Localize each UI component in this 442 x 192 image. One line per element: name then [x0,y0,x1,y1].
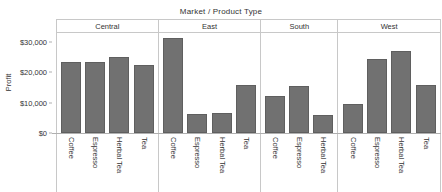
x-axis-tick-label[interactable]: Espresso [372,137,381,168]
x-axis-tick-cell: Coffee [61,134,81,192]
x-axis-tick-cell: Herbal Tea [313,134,333,192]
x-label-panel-central: CoffeeEspressoHerbal TeaTea [56,134,159,192]
panel-header-south: South [261,20,338,32]
x-axis-tick-cell: Tea [134,134,154,192]
x-axis-tick-label[interactable]: Tea [139,137,148,149]
bar[interactable] [109,57,129,133]
x-axis-tick-label[interactable]: Espresso [193,137,202,168]
x-label-panel-east: CoffeeEspressoHerbal TeaTea [159,134,262,192]
x-axis-tick-cell: Espresso [289,134,309,192]
x-axis-tick-label[interactable]: Herbal Tea [217,137,226,173]
x-axis-tick-label[interactable]: Coffee [168,137,177,159]
x-axis-tick-cell: Coffee [163,134,183,192]
bar[interactable] [236,85,256,133]
x-axis-tick-label[interactable]: Tea [421,137,430,149]
bar[interactable] [212,113,232,133]
bar[interactable] [416,85,436,133]
chart-container: Market / Product Type Profit $0$10,000$2… [0,0,442,192]
y-axis-tick-mark [49,72,52,73]
x-axis-tick-label[interactable]: Coffee [348,137,357,159]
plot-area [56,33,441,133]
y-axis-tick-mark [49,102,52,103]
bar-group [159,33,261,133]
bar[interactable] [61,62,81,133]
bar[interactable] [367,59,387,133]
panel-header-west: West [338,20,441,32]
x-axis-tick-cell: Herbal Tea [212,134,232,192]
bar[interactable] [187,114,207,133]
x-axis-tick-cell: Tea [416,134,436,192]
panel-header-east: East [159,20,262,32]
x-axis-label-row: CoffeeEspressoHerbal TeaTeaCoffeeEspress… [56,134,441,192]
x-axis-tick-cell: Espresso [85,134,105,192]
x-axis-tick-label[interactable]: Coffee [67,137,76,159]
x-axis-tick-label[interactable]: Herbal Tea [115,137,124,173]
x-axis-tick-label[interactable]: Herbal Tea [319,137,328,173]
x-axis-tick-cell: Herbal Tea [391,134,411,192]
y-axis-tick-mark [49,42,52,43]
bar[interactable] [163,38,183,133]
x-axis-tick-cell: Coffee [265,134,285,192]
y-axis-tick-label: $30,000 [20,38,47,47]
panel-west [338,33,441,133]
bar[interactable] [343,104,363,133]
bar[interactable] [391,51,411,133]
panel-header-row: CentralEastSouthWest [56,19,441,33]
x-axis-tick-cell: Coffee [343,134,363,192]
bar[interactable] [85,62,105,134]
panel-east [159,33,262,133]
chart-title: Market / Product Type [0,7,442,16]
x-axis-tick-label[interactable]: Coffee [271,137,280,159]
y-axis-tick-labels: $0$10,000$20,000$30,000 [0,0,55,192]
y-axis-tick-label: $20,000 [20,68,47,77]
x-axis-tick-cell: Espresso [367,134,387,192]
bar[interactable] [265,96,285,133]
bar-group [338,33,440,133]
y-axis-tick-label: $0 [39,129,47,138]
x-axis-tick-label[interactable]: Espresso [91,137,100,168]
bar[interactable] [313,115,333,133]
x-axis-tick-cell: Herbal Tea [109,134,129,192]
x-label-panel-south: CoffeeEspressoHerbal Tea [261,134,338,192]
x-label-panel-west: CoffeeEspressoHerbal TeaTea [338,134,441,192]
panel-central [56,33,159,133]
x-axis-tick-cell: Tea [236,134,256,192]
bar[interactable] [289,86,309,133]
x-axis-tick-label[interactable]: Tea [242,137,251,149]
x-axis-tick-cell: Espresso [187,134,207,192]
x-axis-tick-label[interactable]: Espresso [295,137,304,168]
x-axis-tick-label[interactable]: Herbal Tea [397,137,406,173]
y-axis-tick-label: $10,000 [20,98,47,107]
panel-header-central: Central [56,20,159,32]
bar-group [57,33,158,133]
bar-group [261,33,337,133]
panel-south [261,33,338,133]
bar[interactable] [134,65,154,133]
